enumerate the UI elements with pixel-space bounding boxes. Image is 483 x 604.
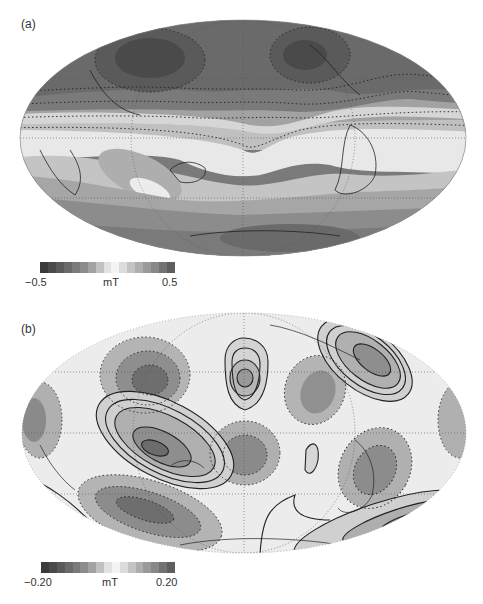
colorbar-segment bbox=[96, 562, 104, 573]
panel-b-map bbox=[0, 310, 483, 556]
colorbar-segment bbox=[143, 262, 151, 273]
colorbar-segment bbox=[40, 262, 48, 273]
panel-b-colorbar-min: −0.20 bbox=[24, 576, 52, 588]
panel-a-colorbar-min: −0.5 bbox=[25, 276, 47, 288]
panel-a-colorbar-unit: mT bbox=[103, 276, 119, 288]
colorbar-segment bbox=[111, 262, 119, 273]
colorbar-segment bbox=[73, 562, 81, 573]
colorbar-segment bbox=[80, 562, 88, 573]
colorbar-segment bbox=[48, 262, 56, 273]
colorbar-segment bbox=[112, 562, 120, 573]
colorbar-segment bbox=[64, 262, 72, 273]
panel-b-colorbar bbox=[41, 562, 175, 573]
colorbar-segment bbox=[151, 562, 159, 573]
colorbar-segment bbox=[120, 562, 128, 573]
panel-a-map bbox=[0, 18, 483, 260]
colorbar-segment bbox=[41, 562, 49, 573]
colorbar-segment bbox=[159, 562, 167, 573]
panel-a-colorbar bbox=[40, 262, 175, 273]
colorbar-segment bbox=[104, 262, 112, 273]
colorbar-segment bbox=[119, 262, 127, 273]
colorbar-segment bbox=[88, 262, 96, 273]
colorbar-segment bbox=[57, 562, 65, 573]
panel-a-colorbar-max: 0.5 bbox=[162, 276, 177, 288]
colorbar-segment bbox=[135, 262, 143, 273]
colorbar-segment bbox=[151, 262, 159, 273]
colorbar-segment bbox=[128, 562, 136, 573]
colorbar-segment bbox=[49, 562, 57, 573]
colorbar-segment bbox=[104, 562, 112, 573]
colorbar-segment bbox=[80, 262, 88, 273]
colorbar-segment bbox=[65, 562, 73, 573]
colorbar-segment bbox=[88, 562, 96, 573]
colorbar-segment bbox=[167, 562, 175, 573]
colorbar-segment bbox=[72, 262, 80, 273]
panel-b-colorbar-max: 0.20 bbox=[156, 576, 177, 588]
colorbar-segment bbox=[96, 262, 104, 273]
colorbar-segment bbox=[143, 562, 151, 573]
colorbar-segment bbox=[136, 562, 144, 573]
colorbar-segment bbox=[127, 262, 135, 273]
panel-b-colorbar-unit: mT bbox=[102, 576, 118, 588]
colorbar-segment bbox=[159, 262, 167, 273]
colorbar-segment bbox=[56, 262, 64, 273]
colorbar-segment bbox=[167, 262, 175, 273]
